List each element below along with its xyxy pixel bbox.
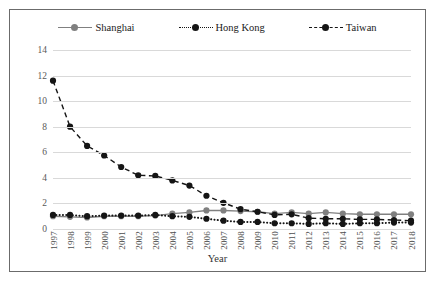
data-point-marker <box>357 216 363 222</box>
x-axis-tick-label: 2008 <box>236 231 246 250</box>
data-point-marker <box>272 212 278 218</box>
x-axis-tick-label: 2005 <box>185 231 195 250</box>
y-axis-tick-label: 2 <box>42 198 47 208</box>
data-point-marker <box>118 164 124 170</box>
x-axis-title: Year <box>10 253 425 264</box>
legend-item-label: Hong Kong <box>216 22 265 33</box>
legend-item-taiwan[interactable]: Taiwan <box>309 22 377 33</box>
chart-legend: ShanghaiHong KongTaiwan <box>10 22 425 33</box>
data-point-marker <box>50 78 56 84</box>
gridline <box>53 178 411 179</box>
data-point-marker <box>306 221 312 227</box>
y-axis-tick-label: 0 <box>42 224 47 234</box>
data-point-marker <box>306 215 312 221</box>
data-point-marker <box>289 220 295 226</box>
x-axis-tick-labels: 1997199819992000200120022003200420052006… <box>53 231 411 273</box>
x-axis-tick-label: 2001 <box>117 231 127 250</box>
data-point-marker <box>323 216 329 222</box>
data-point-marker <box>237 206 243 212</box>
x-axis-tick-label: 2002 <box>134 231 144 250</box>
legend-marker-icon <box>192 24 199 31</box>
data-point-marker <box>391 217 397 223</box>
gridline <box>53 101 411 102</box>
data-point-marker <box>135 212 141 218</box>
data-point-marker <box>169 213 175 219</box>
data-point-marker <box>220 207 226 213</box>
data-point-marker <box>408 218 414 224</box>
x-axis-tick-label: 1999 <box>83 231 93 250</box>
data-point-marker <box>289 211 295 217</box>
figure-container: ShanghaiHong KongTaiwan 02468101214 1997… <box>0 0 442 296</box>
figure-caption <box>9 286 426 296</box>
legend-item-label: Taiwan <box>346 22 377 33</box>
data-point-marker <box>340 216 346 222</box>
plot-area: 02468101214 <box>53 50 411 229</box>
data-point-marker <box>203 193 209 199</box>
legend-marker-icon <box>322 24 329 31</box>
legend-item-shanghai[interactable]: Shanghai <box>58 22 134 33</box>
gridline <box>53 203 411 204</box>
x-axis-tick-label: 2004 <box>168 231 178 250</box>
x-axis-tick-label: 2015 <box>355 231 365 250</box>
x-axis-tick-label: 2000 <box>100 231 110 250</box>
data-point-marker <box>254 219 260 225</box>
data-point-marker <box>374 216 380 222</box>
series-taiwan <box>50 78 414 224</box>
data-point-marker <box>118 212 124 218</box>
data-point-marker <box>323 209 329 215</box>
x-axis-tick-label: 2010 <box>270 231 280 250</box>
data-point-marker <box>84 213 90 219</box>
gridline <box>53 50 411 51</box>
data-point-marker <box>186 182 192 188</box>
legend-item-hong-kong[interactable]: Hong Kong <box>179 22 265 33</box>
data-point-marker <box>254 209 260 215</box>
chart-inner: ShanghaiHong KongTaiwan 02468101214 1997… <box>10 10 425 271</box>
data-point-marker <box>220 218 226 224</box>
legend-swatch-icon <box>58 23 92 33</box>
y-axis-tick-label: 12 <box>38 71 48 81</box>
data-point-marker <box>101 152 107 158</box>
data-point-marker <box>203 216 209 222</box>
legend-swatch-icon <box>309 23 343 33</box>
data-point-marker <box>203 207 209 213</box>
y-axis-tick-label: 6 <box>42 147 47 157</box>
legend-item-label: Shanghai <box>95 22 134 33</box>
data-point-marker <box>391 211 397 217</box>
gridline <box>53 76 411 77</box>
data-point-marker <box>152 212 158 218</box>
x-axis-tick-label: 2012 <box>304 231 314 250</box>
data-point-marker <box>67 212 73 218</box>
y-axis-tick-label: 14 <box>38 45 48 55</box>
data-point-marker <box>50 212 56 218</box>
legend-swatch-icon <box>179 23 213 33</box>
y-axis-tick-label: 4 <box>42 173 47 183</box>
legend-marker-icon <box>71 24 78 31</box>
data-point-marker <box>84 143 90 149</box>
chart-frame: ShanghaiHong KongTaiwan 02468101214 1997… <box>9 9 426 272</box>
series-layer <box>53 50 411 229</box>
data-point-marker <box>186 214 192 220</box>
gridline <box>53 127 411 128</box>
x-axis-tick-label: 2014 <box>338 231 348 250</box>
data-point-marker <box>408 211 414 217</box>
data-point-marker <box>272 220 278 226</box>
y-axis-tick-label: 8 <box>42 122 47 132</box>
data-point-marker <box>101 212 107 218</box>
x-axis-tick-label: 2006 <box>202 231 212 250</box>
x-axis-tick-label: 2018 <box>407 231 417 250</box>
x-axis-tick-label: 2009 <box>253 231 263 250</box>
x-axis-tick-label: 2016 <box>372 231 382 250</box>
x-axis-tick-label: 1997 <box>49 231 59 250</box>
x-axis-tick-label: 2007 <box>219 231 229 250</box>
x-axis-tick-label: 1998 <box>66 231 76 250</box>
gridline <box>53 152 411 153</box>
x-axis-tick-label: 2011 <box>287 231 297 249</box>
x-axis-tick-label: 2003 <box>151 231 161 250</box>
data-point-marker <box>237 219 243 225</box>
y-axis-tick-label: 10 <box>38 96 48 106</box>
x-axis-tick-label: 2013 <box>321 231 331 250</box>
x-axis-tick-label: 2017 <box>389 231 399 250</box>
